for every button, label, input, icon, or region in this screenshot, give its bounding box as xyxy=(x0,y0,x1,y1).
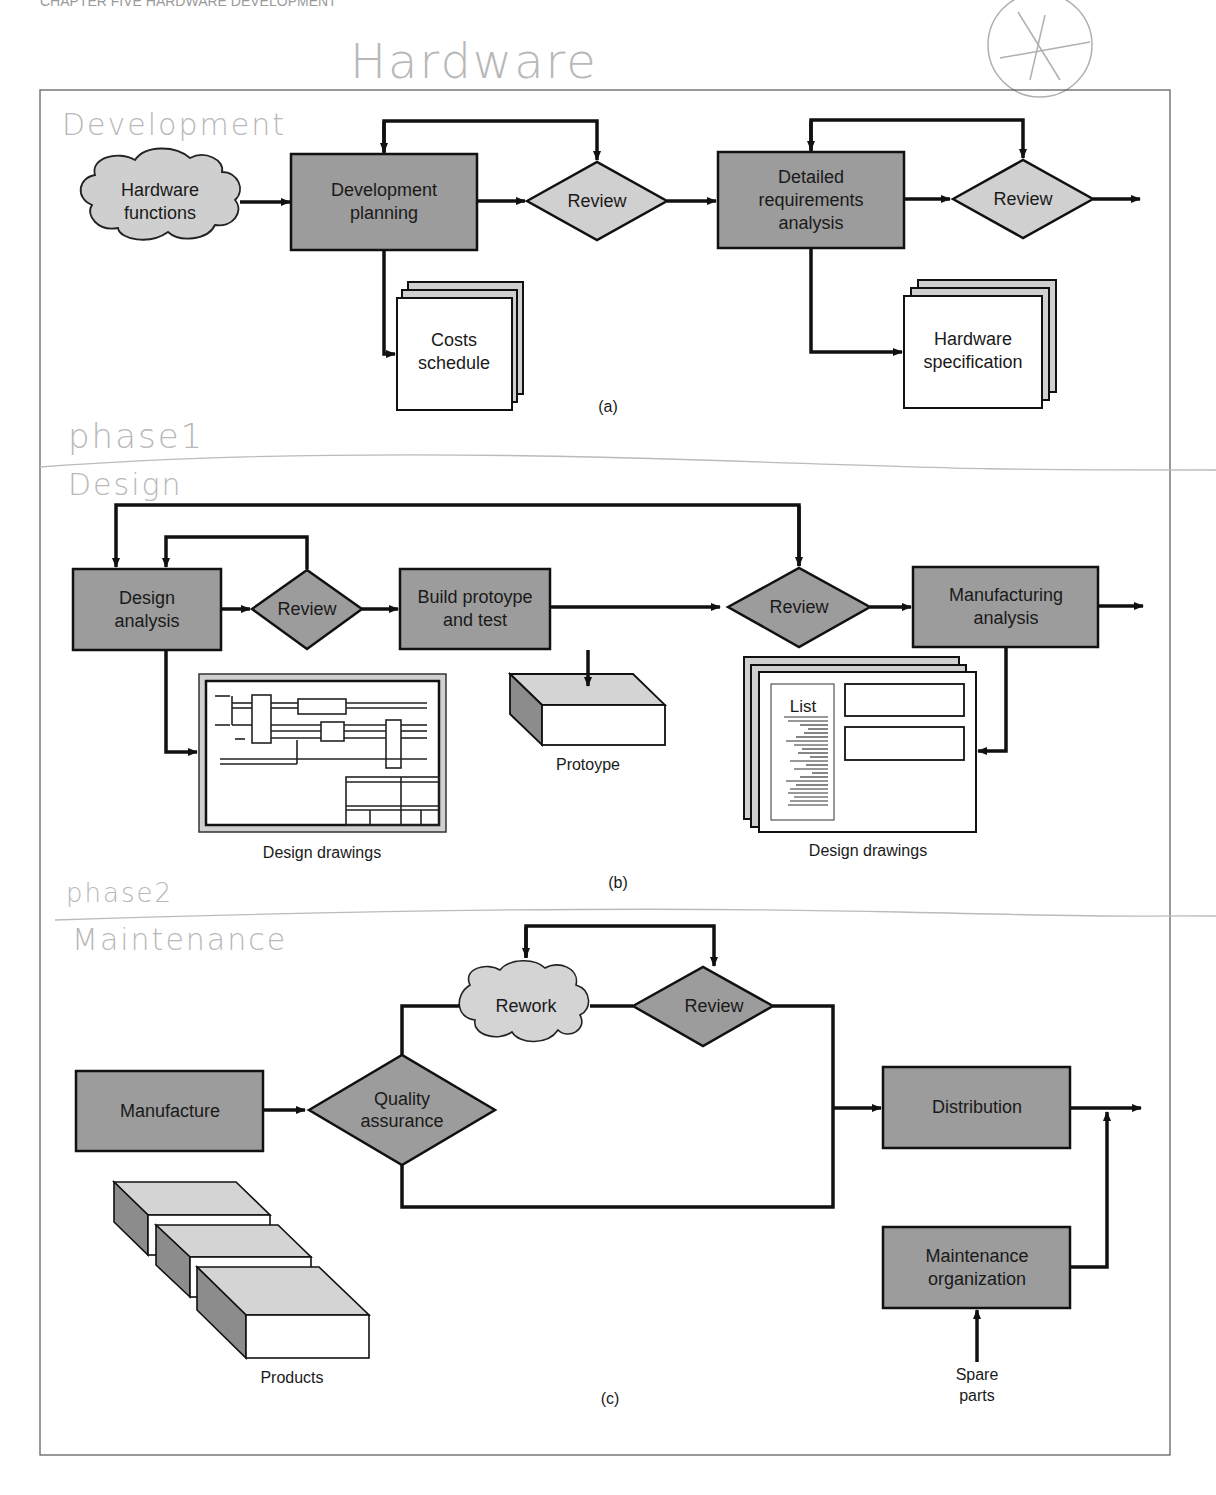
distribution-box: Distribution xyxy=(883,1067,1070,1148)
mfg-line2: analysis xyxy=(973,608,1038,628)
handwritten-label-phase2: phase2 xyxy=(66,878,173,908)
caption-c: (c) xyxy=(601,1390,620,1407)
review-diamond-b2: Review xyxy=(728,568,870,647)
manufacturing-analysis-box: Manufacturing analysis xyxy=(913,567,1098,647)
costs-line1: Costs xyxy=(431,330,477,350)
hardware-functions-cloud: Hardware functions xyxy=(81,148,240,239)
qa-line1: Quality xyxy=(374,1089,430,1109)
review-c-label: Review xyxy=(684,996,744,1016)
spare-parts-line2: parts xyxy=(959,1387,995,1404)
hardware-development-diagram: CHAPTER FIVE HARDWARE DEVELOPMENT Hardwa… xyxy=(0,0,1216,1495)
prototype-block: Protoype xyxy=(510,674,665,773)
mfg-line1: Manufacturing xyxy=(949,585,1063,605)
design-analysis-line1: Design xyxy=(119,588,175,608)
distribution-label: Distribution xyxy=(932,1097,1022,1117)
rework-cloud: Rework xyxy=(459,961,588,1042)
dev-planning-line1: Development xyxy=(331,180,437,200)
design-drawings-right-caption: Design drawings xyxy=(809,842,927,859)
design-analysis-line2: analysis xyxy=(114,611,179,631)
running-head: CHAPTER FIVE HARDWARE DEVELOPMENT xyxy=(40,0,337,9)
costs-line2: schedule xyxy=(418,353,490,373)
build-line1: Build protoype xyxy=(417,587,532,607)
review-a1-label: Review xyxy=(567,191,627,211)
arrow-design-to-drawings xyxy=(166,651,197,752)
spec-line2: specification xyxy=(923,352,1022,372)
handwritten-label-phase1: phase1 xyxy=(68,416,204,456)
arrow-mfg-to-drawings xyxy=(978,648,1006,751)
list-label: List xyxy=(790,697,817,716)
maintenance-line2: organization xyxy=(928,1269,1026,1289)
circled-asterisk-icon xyxy=(988,0,1092,97)
review-diamond-b1: Review xyxy=(252,570,362,649)
products-caption: Products xyxy=(260,1369,323,1386)
dev-planning-line2: planning xyxy=(350,203,418,223)
review-diamond-a2: Review xyxy=(953,160,1093,238)
caption-b: (b) xyxy=(608,874,628,891)
qa-line2: assurance xyxy=(360,1111,443,1131)
arrow-detailed-to-spec xyxy=(811,249,902,352)
handwritten-label-design: Design xyxy=(68,467,183,502)
detailed-line1: Detailed xyxy=(778,167,844,187)
build-prototype-box: Build protoype and test xyxy=(400,569,550,649)
review-diamond-c: Review xyxy=(633,967,773,1046)
maintenance-organization-box: Maintenance organization xyxy=(883,1227,1070,1308)
maintenance-line1: Maintenance xyxy=(925,1246,1028,1266)
review-b2-label: Review xyxy=(769,597,829,617)
rework-label: Rework xyxy=(495,996,557,1016)
costs-schedule-document: Costs schedule xyxy=(397,282,523,410)
handwritten-label-maintenance: Maintenance xyxy=(72,922,287,957)
detailed-line2: requirements xyxy=(758,190,863,210)
prototype-caption: Protoype xyxy=(556,756,620,773)
handwritten-label-development: Development xyxy=(62,107,286,142)
quality-assurance-diamond: Quality assurance xyxy=(309,1055,495,1165)
line-qa-to-rework xyxy=(402,1006,460,1055)
review-b1-label: Review xyxy=(277,599,337,619)
manufacture-box: Manufacture xyxy=(76,1071,263,1151)
review-diamond-a1: Review xyxy=(527,162,667,240)
feedback-loop-c xyxy=(526,926,714,966)
design-drawings-schematic: Design drawings xyxy=(199,674,446,861)
design-drawings-left-caption: Design drawings xyxy=(263,844,381,861)
design-drawings-list-document: List Design drawings xyxy=(744,657,976,859)
design-analysis-box: Design analysis xyxy=(73,569,221,650)
cloud-label-line1: Hardware xyxy=(121,180,199,200)
arrow-maintenance-to-output xyxy=(1071,1112,1107,1267)
hardware-specification-document: Hardware specification xyxy=(904,280,1056,408)
products-blocks: Products xyxy=(114,1182,369,1386)
cloud-label-line2: functions xyxy=(124,203,196,223)
spec-line1: Hardware xyxy=(934,329,1012,349)
manufacture-label: Manufacture xyxy=(120,1101,220,1121)
caption-a: (a) xyxy=(598,398,618,415)
handwritten-divider-2 xyxy=(55,909,1216,920)
arrow-planning-to-costs xyxy=(384,251,395,354)
detailed-requirements-box: Detailed requirements analysis xyxy=(718,152,904,248)
spare-parts-line1: Spare xyxy=(956,1366,999,1383)
development-planning-box: Development planning xyxy=(291,154,477,250)
feedback-loop-b1 xyxy=(166,537,307,569)
detailed-line3: analysis xyxy=(778,213,843,233)
build-line2: and test xyxy=(443,610,507,630)
handwritten-title: Hardware xyxy=(350,33,598,89)
handwritten-divider-1 xyxy=(40,455,1216,470)
review-a2-label: Review xyxy=(993,189,1053,209)
